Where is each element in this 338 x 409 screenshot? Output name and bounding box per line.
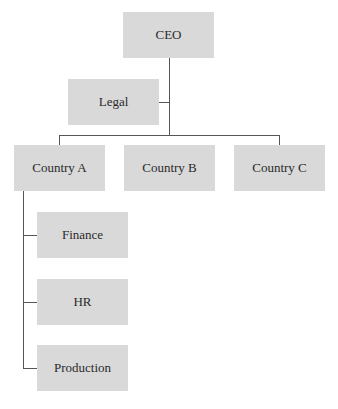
node-ceo-label: CEO xyxy=(156,27,182,43)
country-a-drop-connector xyxy=(59,135,60,145)
ceo-trunk-connector xyxy=(169,58,170,135)
node-production-label: Production xyxy=(54,360,111,376)
node-finance-label: Finance xyxy=(62,227,103,243)
legal-connector xyxy=(159,102,169,103)
node-ceo: CEO xyxy=(123,12,214,58)
node-country-b: Country B xyxy=(124,145,215,191)
node-production: Production xyxy=(37,345,128,391)
node-finance: Finance xyxy=(37,212,128,258)
node-country-c-label: Country C xyxy=(252,160,307,176)
node-country-a: Country A xyxy=(14,145,105,191)
node-legal: Legal xyxy=(68,79,159,125)
node-hr-label: HR xyxy=(73,294,91,310)
country-a-subtree-connector xyxy=(23,191,24,369)
hr-connector xyxy=(23,302,37,303)
node-legal-label: Legal xyxy=(99,94,129,110)
country-c-drop-connector xyxy=(279,135,280,145)
country-bus-connector xyxy=(59,135,280,136)
finance-connector xyxy=(23,235,37,236)
node-country-c: Country C xyxy=(234,145,325,191)
node-hr: HR xyxy=(37,279,128,325)
node-country-a-label: Country A xyxy=(32,160,87,176)
production-connector xyxy=(23,368,37,369)
node-country-b-label: Country B xyxy=(142,160,197,176)
